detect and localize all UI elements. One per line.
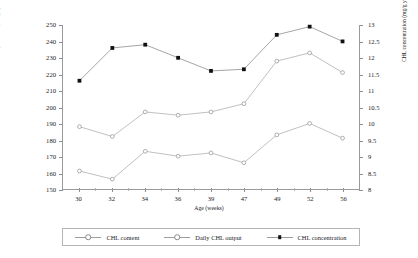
legend-marker-open-circle-icon bbox=[175, 234, 181, 240]
y-axis-right-tick-label: 8 bbox=[368, 186, 398, 193]
y-axis-left-tick-label: 200 bbox=[26, 104, 56, 111]
legend-label: Daily CHL output bbox=[195, 234, 241, 241]
series-marker-open-circle bbox=[242, 161, 246, 165]
x-axis-tick-label: 30 bbox=[67, 195, 91, 202]
series-marker-open-circle bbox=[341, 71, 345, 75]
y-axis-right-tick-label: 8.5 bbox=[368, 170, 398, 177]
y-axis-right-tick-label: 9.5 bbox=[368, 137, 398, 144]
series-marker-open-circle bbox=[78, 169, 82, 173]
y-axis-left-tick-mark bbox=[59, 190, 63, 191]
y-axis-left-title-line2: Daily CHL output (mg/day) bbox=[0, 0, 1, 58]
y-axis-left-title: CHL content (mg/yolk) Daily CHL output (… bbox=[0, 0, 1, 58]
y-axis-right-tick-label: 11 bbox=[368, 87, 398, 94]
series-marker-open-circle bbox=[143, 149, 147, 153]
legend-line-swatch bbox=[164, 237, 190, 238]
series-marker-open-circle bbox=[308, 51, 312, 55]
y-axis-left-tick-label: 210 bbox=[26, 87, 56, 94]
series-marker-open-circle bbox=[275, 59, 279, 63]
series-canvas bbox=[63, 25, 359, 189]
series-marker-filled-square bbox=[176, 56, 180, 60]
series-marker-open-circle bbox=[308, 122, 312, 126]
legend-line-swatch bbox=[267, 237, 293, 238]
series-marker-open-circle bbox=[209, 110, 213, 114]
y-axis-left-tick-label: 240 bbox=[26, 38, 56, 45]
series-marker-open-circle bbox=[176, 113, 180, 117]
series-marker-open-circle bbox=[78, 125, 82, 129]
series-marker-filled-square bbox=[209, 69, 213, 73]
series-marker-filled-square bbox=[242, 67, 246, 71]
series-marker-open-circle bbox=[209, 151, 213, 155]
x-axis-tick-label: 47 bbox=[232, 195, 256, 202]
series-marker-open-circle bbox=[341, 136, 345, 140]
series-marker-open-circle bbox=[275, 133, 279, 137]
y-axis-right-tick-label: 11.5 bbox=[368, 71, 398, 78]
y-axis-right-tick-label: 12 bbox=[368, 54, 398, 61]
x-axis-tick-label: 52 bbox=[298, 195, 322, 202]
y-axis-left-tick-label: 230 bbox=[26, 54, 56, 61]
x-axis-tick-label: 49 bbox=[265, 195, 289, 202]
legend-label: CHL content bbox=[106, 234, 139, 241]
series-marker-open-circle bbox=[143, 110, 147, 114]
x-axis-tick-label: 36 bbox=[166, 195, 190, 202]
x-axis-tick-label: 34 bbox=[133, 195, 157, 202]
y-axis-left-tick-label: 170 bbox=[26, 153, 56, 160]
legend-marker-filled-square-icon bbox=[278, 235, 282, 239]
series-marker-open-circle bbox=[110, 177, 114, 181]
y-axis-right-title: CHL concentration (mg/g yolk) bbox=[401, 0, 407, 62]
series-marker-filled-square bbox=[308, 25, 312, 29]
y-axis-right-tick-label: 12.5 bbox=[368, 38, 398, 45]
y-axis-left-tick-label: 220 bbox=[26, 71, 56, 78]
y-axis-right-tick-label: 10.5 bbox=[368, 104, 398, 111]
series-marker-open-circle bbox=[110, 135, 114, 139]
legend-item[interactable]: CHL concentration bbox=[267, 234, 347, 241]
y-axis-right-tick-mark bbox=[359, 190, 363, 191]
legend-line-swatch bbox=[75, 237, 101, 238]
x-axis-tick-label: 56 bbox=[331, 195, 355, 202]
x-axis-tick-label: 39 bbox=[199, 195, 223, 202]
y-axis-right-tick-label: 10 bbox=[368, 120, 398, 127]
series-marker-filled-square bbox=[78, 79, 82, 83]
series-marker-open-circle bbox=[176, 154, 180, 158]
chart-container: CHL content (mg/yolk) Daily CHL output (… bbox=[0, 0, 418, 258]
series-marker-filled-square bbox=[143, 43, 147, 47]
y-axis-right-tick-label: 13 bbox=[368, 21, 398, 28]
y-axis-left-tick-label: 180 bbox=[26, 137, 56, 144]
legend-label: CHL concentration bbox=[298, 234, 347, 241]
series-marker-filled-square bbox=[341, 40, 345, 44]
x-axis-title: Age (weeks) bbox=[0, 205, 418, 211]
legend-item[interactable]: CHL content bbox=[75, 234, 139, 241]
plot-area bbox=[62, 25, 360, 190]
series-line bbox=[79, 53, 342, 137]
chart-legend: CHL contentDaily CHL outputCHL concentra… bbox=[62, 228, 360, 246]
series-marker-filled-square bbox=[110, 46, 114, 50]
legend-item[interactable]: Daily CHL output bbox=[164, 234, 241, 241]
y-axis-left-tick-label: 250 bbox=[26, 21, 56, 28]
x-axis-tick-label: 32 bbox=[100, 195, 124, 202]
series-marker-open-circle bbox=[242, 102, 246, 106]
y-axis-left-tick-label: 160 bbox=[26, 170, 56, 177]
y-axis-left-tick-label: 190 bbox=[26, 120, 56, 127]
series-marker-filled-square bbox=[275, 33, 279, 37]
y-axis-right-tick-label: 9 bbox=[368, 153, 398, 160]
legend-marker-open-circle-icon bbox=[86, 234, 92, 240]
y-axis-left-tick-label: 150 bbox=[26, 186, 56, 193]
